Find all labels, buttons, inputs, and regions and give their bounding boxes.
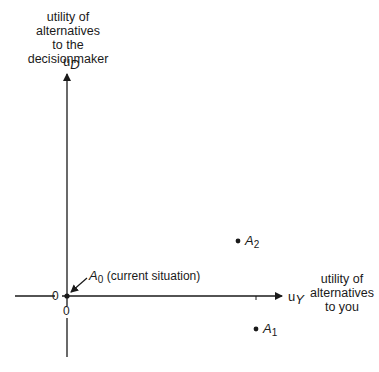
point-a0-note: (current situation) (107, 269, 200, 283)
y-axis-title-line: to the (18, 38, 118, 52)
point-a0-sub: 0 (98, 274, 104, 285)
x-axis-title: utility of alternatives to you (305, 272, 379, 314)
x-axis-symbol: uY (288, 289, 304, 304)
y-axis-zero-label: 0 (52, 289, 59, 303)
point-a2-sub: 2 (254, 239, 260, 250)
x-axis-title-line: alternatives (305, 286, 379, 300)
x-axis-symbol-sub: Y (295, 292, 304, 307)
point-a1-label: A1 (263, 321, 277, 336)
point-a0 (64, 293, 69, 298)
x-axis-title-line: utility of (305, 272, 379, 286)
point-a0-label: A0 (current situation) (89, 268, 200, 283)
point-a2-label: A2 (245, 233, 259, 248)
y-axis-title-line: alternatives (18, 24, 118, 38)
point-a2-name: A (245, 233, 254, 248)
x-axis-title-line: to you (305, 300, 379, 314)
point-a1 (254, 327, 259, 332)
x-axis-zero-label: 0 (63, 304, 70, 318)
y-axis-title-line: utility of (18, 10, 118, 24)
y-axis-symbol-sub: D (70, 57, 79, 72)
y-axis-symbol-base: u (63, 54, 70, 69)
a0-pointer-arrow (71, 278, 87, 292)
point-a0-name: A (89, 268, 98, 283)
y-axis-symbol: uD (63, 57, 80, 72)
point-a1-sub: 1 (272, 327, 278, 338)
point-a1-name: A (263, 321, 272, 336)
point-a2 (236, 239, 241, 244)
